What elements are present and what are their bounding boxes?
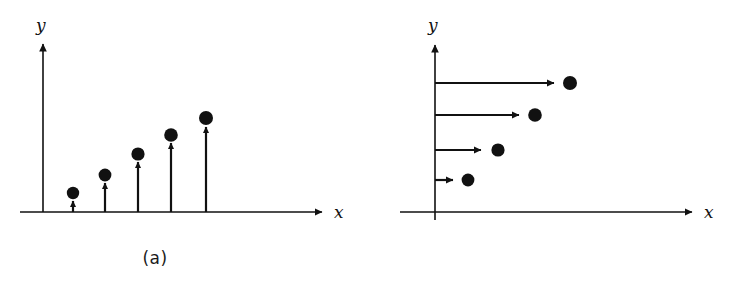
panel-a-y-axis: y: [35, 15, 46, 212]
panel-b-plot: y x: [370, 0, 741, 286]
data-point: [131, 147, 144, 160]
data-point: [491, 143, 504, 156]
x-axis-label: x: [704, 202, 714, 222]
panel-b-data-points: [462, 76, 577, 186]
panel-a-data-points: [67, 111, 213, 199]
y-axis-label: y: [35, 15, 46, 35]
caption-a: (a): [110, 248, 200, 268]
panel-a-x-axis: x: [20, 202, 344, 222]
data-point: [199, 111, 213, 125]
panel-b-x-axis: x: [400, 202, 714, 222]
y-axis-label: y: [427, 15, 438, 35]
panel-a-plot: y x: [0, 0, 370, 286]
panel-b-stems: [435, 83, 554, 180]
data-point: [528, 108, 542, 122]
panel-a-stems: [73, 127, 206, 212]
data-point: [563, 76, 577, 90]
panel-a: y x (a): [0, 0, 370, 286]
x-axis-label: x: [334, 202, 344, 222]
data-point: [99, 169, 112, 182]
data-point: [462, 174, 475, 187]
data-point: [67, 187, 79, 199]
panel-b-y-axis: y: [427, 15, 438, 220]
data-point: [164, 128, 178, 142]
panel-b: y x (b): [370, 0, 741, 286]
figure-root: y x (a): [0, 0, 741, 286]
